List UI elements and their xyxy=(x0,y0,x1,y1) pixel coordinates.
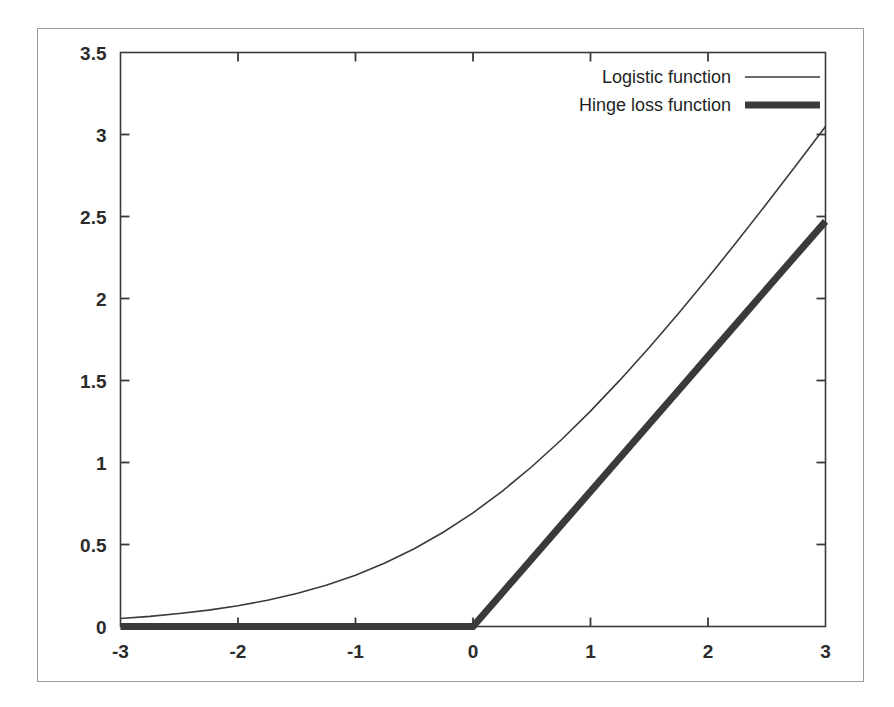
y-axis-tick-labels: 00.511.522.533.5 xyxy=(80,43,107,638)
y-axis-tick-label: 3.5 xyxy=(80,43,107,64)
x-axis-tick-label: 0 xyxy=(468,641,479,662)
x-axis-tick-labels: -3-2-10123 xyxy=(112,641,831,662)
series-line xyxy=(121,221,826,626)
chart-canvas: 00.511.522.533.5 -3-2-10123 Logistic fun… xyxy=(0,0,894,707)
y-axis-tick-label: 1.5 xyxy=(80,371,107,392)
x-axis-tick-label: 1 xyxy=(585,641,596,662)
x-axis-tick-label: -3 xyxy=(112,641,129,662)
series-line xyxy=(121,126,826,618)
y-axis-tick-label: 3 xyxy=(96,125,107,146)
y-axis-tick-label: 0 xyxy=(96,617,107,638)
y-axis-tick-label: 1 xyxy=(96,453,107,474)
y-axis-tick-label: 0.5 xyxy=(80,535,107,556)
y-axis-tick-label: 2.5 xyxy=(80,207,107,228)
x-axis-tick-label: -2 xyxy=(230,641,247,662)
x-axis-tick-label: 2 xyxy=(703,641,714,662)
x-axis-tick-label: -1 xyxy=(347,641,364,662)
legend-entry-label: Hinge loss function xyxy=(579,95,731,115)
loss-functions-chart: 00.511.522.533.5 -3-2-10123 Logistic fun… xyxy=(0,0,894,707)
page-root: 00.511.522.533.5 -3-2-10123 Logistic fun… xyxy=(0,0,894,707)
x-axis-tick-label: 3 xyxy=(820,641,831,662)
chart-legend: Logistic functionHinge loss function xyxy=(579,67,820,115)
y-axis-tick-label: 2 xyxy=(96,289,107,310)
legend-entry-label: Logistic function xyxy=(602,67,731,87)
data-series-layer xyxy=(121,126,826,626)
